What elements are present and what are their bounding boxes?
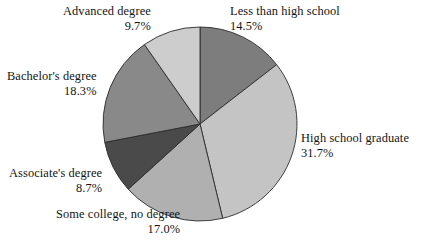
slice-label-some-college-no-degree: Some college, no degree 17.0% bbox=[56, 207, 180, 236]
slice-label-percent: 31.7% bbox=[301, 146, 409, 161]
slice-label-percent: 17.0% bbox=[56, 222, 180, 237]
slice-label-high-school-graduate: High school graduate 31.7% bbox=[301, 131, 409, 160]
pie-chart-figure: Less than high school 14.5% High school … bbox=[0, 0, 422, 247]
slice-label-name: High school graduate bbox=[301, 131, 409, 146]
slice-label-less-than-high-school: Less than high school 14.5% bbox=[230, 4, 340, 33]
slice-label-name: Bachelor's degree bbox=[7, 69, 97, 84]
slice-label-percent: 14.5% bbox=[230, 19, 340, 34]
slice-label-bachelors-degree: Bachelor's degree 18.3% bbox=[7, 69, 97, 98]
slice-label-name: Some college, no degree bbox=[56, 207, 180, 222]
slice-label-percent: 8.7% bbox=[9, 181, 102, 196]
slice-label-name: Advanced degree bbox=[63, 4, 151, 19]
slice-label-associates-degree: Associate's degree 8.7% bbox=[9, 166, 102, 195]
pie-slice-group bbox=[103, 27, 297, 221]
slice-label-percent: 18.3% bbox=[7, 84, 97, 99]
slice-label-name: Associate's degree bbox=[9, 166, 102, 181]
slice-label-name: Less than high school bbox=[230, 4, 340, 19]
slice-label-advanced-degree: Advanced degree 9.7% bbox=[63, 4, 151, 33]
slice-label-percent: 9.7% bbox=[63, 19, 151, 34]
